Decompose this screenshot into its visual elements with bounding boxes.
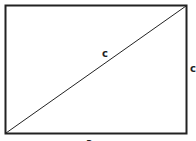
bottom-side-label: a [86, 137, 93, 141]
diagonal-line [6, 6, 186, 133]
right-side-label: c [190, 63, 196, 74]
diagonal-label: c [102, 48, 108, 59]
rectangle-diagram: c c a [0, 0, 196, 141]
